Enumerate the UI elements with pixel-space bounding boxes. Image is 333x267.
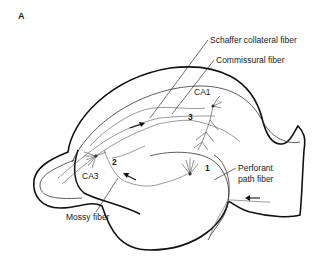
label-mossy-fiber: Mossy fiber: [66, 213, 109, 222]
label-perforant: Perforant: [238, 164, 273, 173]
arrow-mossy: [123, 173, 136, 180]
arrow-perforant: [245, 195, 260, 201]
ca3-neuron: [84, 152, 106, 168]
perforant-pointer: [214, 168, 236, 180]
hippocampus-outer-outline: [34, 67, 305, 250]
ca1-neuron: [194, 96, 222, 150]
mossy-fiber-path: [104, 150, 190, 186]
label-path-fiber: path fiber: [238, 175, 273, 184]
dentate-gyrus-outer: [214, 155, 229, 200]
label-commissural-fiber: Commissural fiber: [216, 56, 285, 65]
label-ca1: CA1: [194, 88, 211, 97]
label-ca3: CA3: [82, 172, 99, 181]
panel-label: A: [18, 12, 25, 21]
perforant-fiber-path: [210, 200, 270, 236]
ca-inner-curve: [72, 86, 300, 162]
label-schaffer-collateral-fiber: Schaffer collateral fiber: [210, 36, 297, 45]
synapse-number-2: 2: [112, 158, 117, 167]
dentate-gyrus-curve: [150, 152, 229, 240]
arrow-schaffer: [130, 122, 145, 128]
synapse-number-1: 1: [205, 164, 210, 173]
mossy-pointer: [96, 178, 118, 212]
synapse-number-3: 3: [188, 113, 193, 122]
hippocampus-diagram: A Schaffer collateral fiber Commissural …: [0, 0, 333, 267]
dentate-granule-neuron: [182, 158, 198, 175]
